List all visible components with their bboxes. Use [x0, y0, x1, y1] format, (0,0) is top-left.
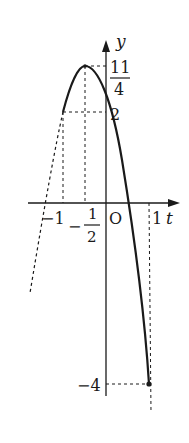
- vertex-dot: [83, 64, 87, 68]
- y-tick-11-4-den: 4: [114, 80, 124, 99]
- y-tick-11-4-num: 11: [110, 58, 130, 77]
- guide-lines: [63, 66, 151, 412]
- origin-label: O: [109, 209, 122, 228]
- t-axis-arrow-icon: [168, 199, 180, 207]
- x-tick-neg-half-num: 1: [88, 205, 98, 223]
- y-axis-label: y: [115, 31, 126, 51]
- endpoint-dot: [146, 381, 151, 386]
- x-tick-neg-half-sign: −: [68, 217, 81, 236]
- x-tick-neg1: −1: [41, 209, 65, 228]
- x-tick-neg-half-den: 2: [87, 228, 97, 246]
- y-axis-arrow-icon: [102, 40, 110, 52]
- x-tick-1: 1: [152, 209, 162, 228]
- y-tick-neg4: −4: [77, 376, 101, 395]
- parabola-diagram: y t O 11 4 2 −4 −1 − 1 2 1: [0, 0, 189, 443]
- y-tick-2: 2: [110, 105, 120, 124]
- t-axis-label: t: [166, 208, 173, 228]
